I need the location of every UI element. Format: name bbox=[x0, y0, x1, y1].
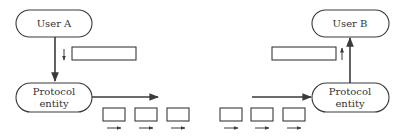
packet-row bbox=[103, 108, 305, 128]
packet-1 bbox=[103, 108, 125, 121]
protocol-entity-a-node: Protocol entity bbox=[16, 83, 92, 112]
protocol-diagram: User A Protocol entity User B bbox=[0, 0, 405, 137]
protocol-entity-b-node: Protocol entity bbox=[312, 83, 389, 112]
entity-a-line2: entity bbox=[39, 98, 69, 109]
user-a-label: User A bbox=[37, 18, 72, 29]
packet-5 bbox=[251, 108, 273, 121]
entity-a-line1: Protocol bbox=[33, 86, 75, 97]
user-b-node: User B bbox=[312, 10, 389, 37]
user-a-node: User A bbox=[16, 10, 92, 37]
packet-6 bbox=[283, 108, 305, 121]
packet-2 bbox=[135, 108, 157, 121]
user-b-label: User B bbox=[333, 18, 368, 29]
entity-b-line2: entity bbox=[335, 98, 365, 109]
packet-4 bbox=[220, 108, 242, 121]
message-box-b bbox=[272, 47, 336, 60]
entity-b-line1: Protocol bbox=[329, 86, 371, 97]
message-box-a bbox=[72, 47, 136, 60]
packet-3 bbox=[167, 108, 189, 121]
